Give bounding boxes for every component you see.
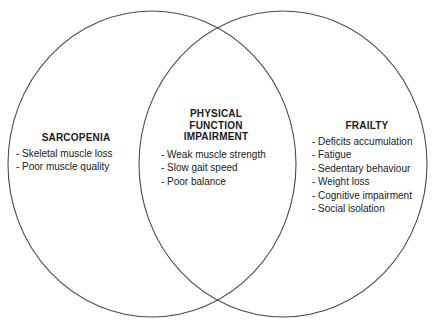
list-item-label: Weak muscle strength	[167, 149, 266, 160]
list-item-label: Cognitive impairment	[318, 190, 412, 201]
region-physical-function-impairment: PHYSICAL FUNCTION IMPAIRMENT -Weak muscl…	[155, 108, 277, 188]
list-item: -Poor muscle quality	[16, 160, 138, 174]
region-frailty-heading: FRAILTY	[306, 120, 428, 132]
venn-diagram: SARCOPENIA -Skeletal muscle loss -Poor m…	[0, 0, 437, 333]
list-item-label: Poor balance	[167, 176, 226, 187]
list-item: -Deficits accumulation	[312, 135, 428, 149]
list-item: -Poor balance	[161, 175, 277, 189]
list-item-label: Social isolation	[318, 203, 385, 214]
list-item-label: Sedentary behaviour	[318, 163, 410, 174]
region-sarcopenia-heading: SARCOPENIA	[14, 132, 138, 144]
list-item-label: Slow gait speed	[167, 162, 238, 173]
list-item: -Weight loss	[312, 175, 428, 189]
list-item-label: Weight loss	[318, 176, 370, 187]
list-item: -Fatigue	[312, 148, 428, 162]
region-physical-function-list: -Weak muscle strength -Slow gait speed -…	[155, 148, 277, 189]
region-sarcopenia: SARCOPENIA -Skeletal muscle loss -Poor m…	[14, 132, 138, 174]
list-item: -Skeletal muscle loss	[16, 147, 138, 161]
region-physical-function-heading: PHYSICAL FUNCTION IMPAIRMENT	[155, 108, 277, 143]
list-item: -Social isolation	[312, 202, 428, 216]
list-item: -Sedentary behaviour	[312, 162, 428, 176]
list-item-label: Poor muscle quality	[22, 161, 109, 172]
list-item: -Cognitive impairment	[312, 189, 428, 203]
list-item: -Weak muscle strength	[161, 148, 277, 162]
region-sarcopenia-list: -Skeletal muscle loss -Poor muscle quali…	[14, 147, 138, 174]
region-frailty: FRAILTY -Deficits accumulation -Fatigue …	[306, 120, 428, 216]
list-item-label: Skeletal muscle loss	[22, 148, 113, 159]
list-item-label: Deficits accumulation	[318, 136, 412, 147]
list-item-label: Fatigue	[318, 149, 351, 160]
list-item: -Slow gait speed	[161, 161, 277, 175]
region-frailty-list: -Deficits accumulation -Fatigue -Sedenta…	[306, 135, 428, 216]
